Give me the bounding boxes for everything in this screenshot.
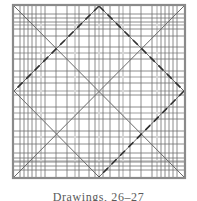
drawing-frame xyxy=(11,3,187,180)
figure-caption: Drawings, 26–27 xyxy=(0,190,197,201)
geometric-drawing xyxy=(11,3,187,180)
figure-container: Drawings, 26–27 xyxy=(0,0,197,201)
